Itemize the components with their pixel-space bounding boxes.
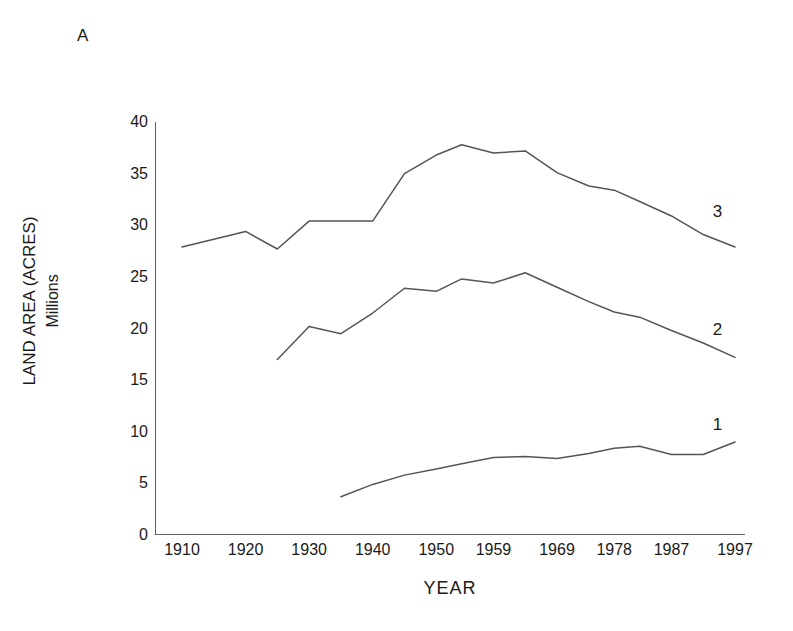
y-tick-label: 5 [114,474,148,492]
series-label-1: 1 [713,415,743,435]
series-label-2: 2 [713,320,743,340]
x-axis-title: YEAR [155,578,745,599]
y-axis-title-line2: Millions [44,274,61,327]
series-lines [182,145,735,497]
y-axis-title: LAND AREA (ACRES) Millions [19,216,65,385]
axes-lines [155,122,745,535]
x-axis-tick-labels: 1910192019301940195019591969197819871997 [0,541,793,571]
figure-panel-a: A LAND AREA (ACRES) Millions 05101520253… [0,0,793,631]
y-tick-label: 30 [114,216,148,234]
x-tick-label: 1920 [211,541,281,559]
y-tick-label: 10 [114,423,148,441]
axis-ticks [155,122,735,535]
x-tick-label: 1997 [700,541,770,559]
x-tick-label: 1959 [458,541,528,559]
series-line-1 [341,442,735,497]
series-label-3: 3 [713,202,743,222]
panel-label: A [77,26,89,46]
y-axis-tick-labels: 0510152025303540 [104,122,148,535]
x-tick-label: 1910 [147,541,217,559]
y-tick-label: 25 [114,268,148,286]
line-chart-svg [155,122,745,535]
plot-area [155,122,745,535]
y-tick-label: 20 [114,320,148,338]
y-axis-title-wrapper: LAND AREA (ACRES) Millions [0,0,90,631]
series-line-3 [182,145,735,249]
y-axis-title-line1: LAND AREA (ACRES) [20,216,39,385]
x-tick-label: 1987 [636,541,706,559]
y-tick-label: 15 [114,371,148,389]
x-tick-label: 1940 [338,541,408,559]
series-line-2 [277,273,735,360]
y-tick-label: 35 [114,165,148,183]
x-tick-label: 1930 [274,541,344,559]
y-tick-label: 40 [114,113,148,131]
